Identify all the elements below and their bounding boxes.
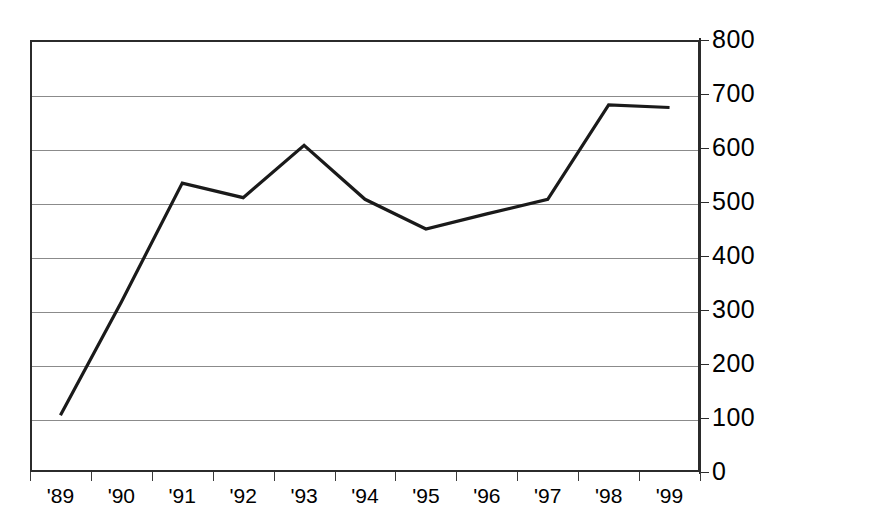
gridline-200 [32, 366, 698, 367]
x-tick-11 [700, 472, 701, 481]
y-tick-200 [700, 364, 709, 365]
x-tick-1 [91, 472, 92, 481]
y-axis-label-100: 100 [712, 405, 755, 430]
x-tick-10 [639, 472, 640, 481]
y-tick-300 [700, 310, 709, 311]
y-tick-400 [700, 256, 709, 257]
x-tick-2 [152, 472, 153, 481]
x-axis-label-2: '91 [169, 485, 196, 507]
gridline-500 [32, 204, 698, 205]
x-axis-label-4: '93 [290, 485, 317, 507]
x-tick-8 [517, 472, 518, 481]
gridline-400 [32, 258, 698, 259]
x-axis-label-0: '89 [47, 485, 74, 507]
gridline-300 [32, 312, 698, 313]
y-tick-100 [700, 418, 709, 419]
x-axis-label-6: '95 [412, 485, 439, 507]
y-axis-label-800: 800 [712, 27, 755, 52]
x-axis-label-1: '90 [108, 485, 135, 507]
gridline-700 [32, 96, 698, 97]
y-tick-0 [700, 472, 709, 473]
y-axis-label-300: 300 [712, 297, 755, 322]
x-axis-label-5: '94 [351, 485, 378, 507]
plot-area [30, 40, 700, 472]
y-axis-label-200: 200 [712, 351, 755, 376]
x-axis-label-3: '92 [229, 485, 256, 507]
line-chart: 0100200300400500600700800 '89'90'91'92'9… [0, 0, 881, 531]
x-axis-label-10: '99 [656, 485, 683, 507]
x-tick-6 [395, 472, 396, 481]
x-tick-0 [30, 472, 31, 481]
gridline-100 [32, 420, 698, 421]
x-tick-4 [274, 472, 275, 481]
x-axis-label-7: '96 [473, 485, 500, 507]
x-axis-label-9: '98 [595, 485, 622, 507]
y-axis-label-0: 0 [712, 459, 726, 484]
x-tick-3 [213, 472, 214, 481]
y-axis-label-700: 700 [712, 81, 755, 106]
gridline-600 [32, 150, 698, 151]
x-tick-9 [578, 472, 579, 481]
y-tick-800 [700, 40, 709, 41]
x-tick-7 [456, 472, 457, 481]
x-axis-label-8: '97 [534, 485, 561, 507]
y-tick-700 [700, 94, 709, 95]
y-axis-label-400: 400 [712, 243, 755, 268]
y-tick-500 [700, 202, 709, 203]
y-tick-600 [700, 148, 709, 149]
y-axis-label-600: 600 [712, 135, 755, 160]
y-axis-label-500: 500 [712, 189, 755, 214]
x-tick-5 [335, 472, 336, 481]
